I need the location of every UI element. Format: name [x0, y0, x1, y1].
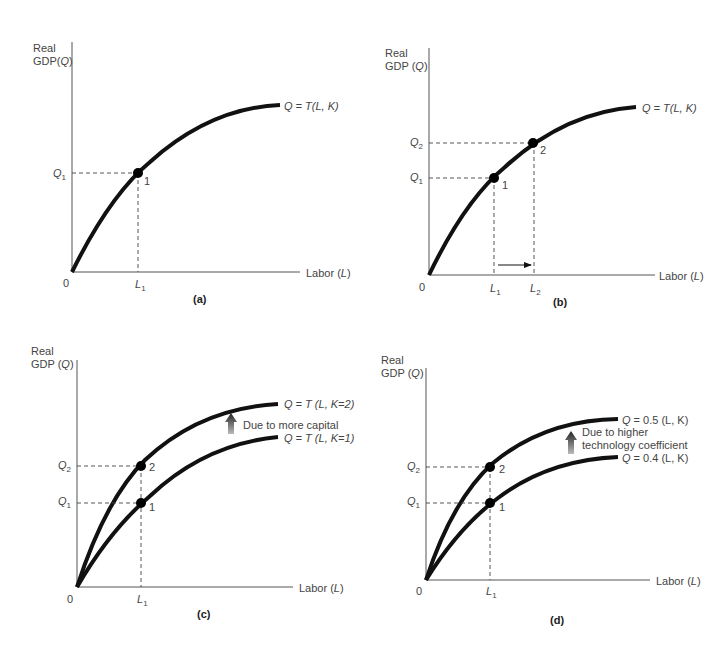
- q1-tick-label: Q1: [58, 495, 72, 510]
- point-2-label: 2: [149, 461, 155, 473]
- y-axis-label-line2: GDP(Q): [33, 55, 73, 67]
- l1-tick-label: L1: [486, 585, 497, 600]
- panel-caption: (b): [553, 296, 567, 308]
- y-axis-label-line1: Real: [385, 47, 408, 59]
- panel-d: Real GDP (Q) Labor (L) 0 Q = 0.5 (L, K) …: [381, 354, 701, 626]
- curve-label: Q = T(L, K): [284, 100, 339, 112]
- point-1-label: 1: [499, 501, 505, 513]
- q2-tick-label: Q2: [407, 460, 421, 475]
- l1-tick-label: L1: [137, 593, 148, 608]
- origin-label: 0: [67, 593, 73, 605]
- q1-tick-label: Q1: [407, 495, 421, 510]
- curve-label-k1: Q = T (L, K=1): [284, 432, 355, 444]
- point-1-label: 1: [149, 501, 155, 513]
- x-axis-label: Labor (L): [306, 267, 351, 279]
- y-axis-label-line1: Real: [31, 345, 54, 357]
- production-curve: [429, 107, 636, 275]
- point-2: [136, 461, 146, 471]
- point-1-label: 1: [144, 175, 150, 187]
- curve-label-k2: Q = T (L, K=2): [284, 398, 355, 410]
- q2-tick-label: Q2: [58, 459, 72, 474]
- curve-label-0-5: Q = 0.5 (L, K): [622, 414, 688, 426]
- y-axis-label-line2: GDP (Q): [381, 367, 424, 379]
- production-curve-0-4: [426, 457, 618, 580]
- production-curve-k2: [77, 404, 278, 587]
- shift-note-line1: Due to higher: [582, 426, 648, 438]
- curve-label: Q = T(L, K): [642, 102, 697, 114]
- q1-tick-label: Q1: [53, 167, 67, 182]
- y-axis-label-line2: GDP (Q): [31, 358, 74, 370]
- production-curve: [72, 105, 280, 272]
- y-axis-label-line1: Real: [33, 42, 56, 54]
- l2-tick-label: L2: [530, 282, 541, 297]
- shift-up-arrow-icon: [225, 413, 237, 434]
- point-1: [485, 498, 495, 508]
- y-axis-label-line1: Real: [381, 354, 404, 366]
- point-2: [528, 138, 538, 148]
- x-axis-label: Labor (L): [656, 575, 701, 587]
- panel-caption: (c): [197, 608, 211, 620]
- shift-note: Due to more capital: [243, 419, 338, 431]
- shift-up-arrow-icon: [565, 431, 577, 454]
- x-axis-label: Labor (L): [299, 582, 344, 594]
- panel-c: Real GDP (Q) Labor (L) 0 Q = T (L, K=2) …: [31, 345, 355, 620]
- l1-tick-label: L1: [490, 282, 501, 297]
- panel-caption: (a): [193, 293, 207, 305]
- point-2-label: 2: [540, 144, 546, 156]
- point-2-label: 2: [499, 463, 505, 475]
- y-axis-label-line2: GDP (Q): [385, 60, 428, 72]
- q1-tick-label: Q1: [410, 171, 424, 186]
- point-2: [485, 462, 495, 472]
- panel-a: Real GDP(Q) Labor (L) 0 Q = T(L, K) 1 Q1…: [33, 42, 351, 305]
- panel-caption: (d): [550, 614, 564, 626]
- origin-label: 0: [416, 585, 422, 597]
- curve-label-0-4: Q = 0.4 (L, K): [622, 452, 688, 464]
- production-function-figure: Real GDP(Q) Labor (L) 0 Q = T(L, K) 1 Q1…: [0, 0, 718, 652]
- l1-tick-label: L1: [135, 278, 146, 293]
- point-1-label: 1: [502, 179, 508, 191]
- panel-b: Real GDP (Q) Labor (L) 0 Q = T(L, K) 1 2…: [385, 47, 704, 308]
- origin-label: 0: [63, 277, 69, 289]
- q2-tick-label: Q2: [410, 136, 424, 151]
- origin-label: 0: [419, 281, 425, 293]
- point-1: [133, 168, 143, 178]
- point-1: [136, 498, 146, 508]
- x-axis-label: Labor (L): [659, 270, 704, 282]
- shift-note-line2: technology coefficient: [582, 439, 688, 451]
- point-1: [489, 173, 499, 183]
